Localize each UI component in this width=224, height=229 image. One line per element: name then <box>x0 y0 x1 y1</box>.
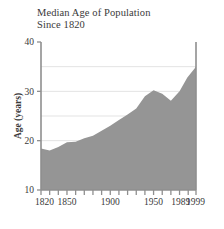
chart-plot: 10203040 182018501900195019891999 Age (y… <box>0 0 224 229</box>
y-tick-label: 30 <box>25 87 35 97</box>
y-axis-title-text: Age (years) <box>13 93 24 139</box>
x-tick-label: 1900 <box>101 197 120 207</box>
x-tick-labels: 182018501900195019891999 <box>35 197 205 207</box>
chart-figure: Median Age of Population Since 1820 1020… <box>0 0 224 229</box>
y-tick-label: 20 <box>25 136 35 146</box>
y-tick-label: 40 <box>25 37 35 47</box>
y-axis-title: Age (years) <box>13 93 24 139</box>
y-tick-labels: 10203040 <box>25 37 35 195</box>
x-tick-label: 1850 <box>57 197 76 207</box>
area-series <box>41 67 196 190</box>
y-tick-label: 10 <box>25 185 35 195</box>
x-tick-label: 1820 <box>35 197 54 207</box>
x-tick-label: 1999 <box>186 197 205 207</box>
area-fill <box>41 67 196 190</box>
x-tick-label: 1950 <box>144 197 163 207</box>
